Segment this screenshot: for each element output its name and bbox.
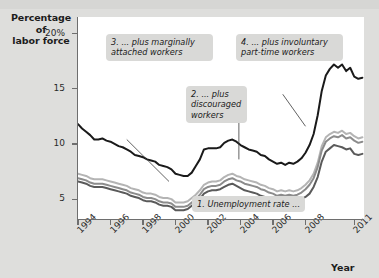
annotation-2: 2. ... plus discouraged workers xyxy=(186,86,247,123)
annotation-1-line1: 1. Unemployment rate ... xyxy=(197,199,300,209)
x-tick-1996 xyxy=(110,220,111,225)
annotation-3-line1: 3. ... plus marginally xyxy=(111,37,208,47)
y-tick-label-10: 10 xyxy=(31,138,65,148)
x-tick-2008 xyxy=(305,220,306,225)
leader-4 xyxy=(283,94,306,126)
x-tick-2000 xyxy=(175,220,176,225)
x-tick-1998 xyxy=(142,220,143,225)
leader-3 xyxy=(127,140,169,182)
x-tick-2002 xyxy=(207,220,208,225)
x-axis-title: Year xyxy=(331,262,355,273)
annotation-2-line2: discouraged xyxy=(191,99,242,109)
y-tick-label-20: 20% xyxy=(31,28,65,38)
annotation-1: 1. Unemployment rate ... xyxy=(192,196,305,212)
y-tick-5 xyxy=(72,199,77,200)
y-tick-15 xyxy=(72,88,77,89)
figure-container: Percentage of labor force 5101520% 19941… xyxy=(0,0,379,278)
y-axis-spine xyxy=(77,17,78,219)
annotation-4-line2: part-time workers xyxy=(241,47,338,57)
x-axis-spine xyxy=(77,219,364,220)
x-tick-1994 xyxy=(77,220,78,225)
annotation-4: 4. ... plus involuntary part-time worker… xyxy=(236,34,343,61)
y-tick-10 xyxy=(72,143,77,144)
top-band xyxy=(0,0,379,9)
annotation-2-line3: workers xyxy=(191,110,242,120)
annotation-4-line1: 4. ... plus involuntary xyxy=(241,37,338,47)
annotation-2-line1: 2. ... plus xyxy=(191,89,242,99)
x-tick-2004 xyxy=(240,220,241,225)
y-tick-label-15: 15 xyxy=(31,83,65,93)
x-tick-2006 xyxy=(272,220,273,225)
y-tick-20 xyxy=(72,33,77,34)
y-tick-label-5: 5 xyxy=(31,193,65,203)
annotation-3-line2: attached workers xyxy=(111,47,208,57)
annotation-3: 3. ... plus marginally attached workers xyxy=(106,34,213,61)
x-tick-2011 xyxy=(354,220,355,225)
